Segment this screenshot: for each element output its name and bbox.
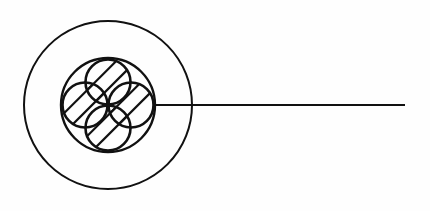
conductor-group — [53, 50, 160, 157]
conductor-circle-right — [109, 83, 154, 128]
conductor-circle-top — [86, 60, 131, 105]
diagram-canvas: Cable cross-section schematic Concentric… — [0, 0, 430, 211]
conductor-circle-left — [63, 83, 108, 128]
conductor-circle-bottom — [86, 106, 131, 151]
cable-cross-section-diagram: Cable cross-section schematic Concentric… — [0, 0, 430, 211]
